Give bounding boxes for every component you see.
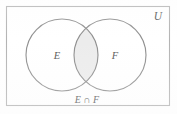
universe-label: U bbox=[154, 10, 163, 22]
set-f-label: F bbox=[111, 50, 119, 61]
set-e-label: E bbox=[53, 50, 61, 61]
venn-diagram-figure: U E F E ∩ F bbox=[0, 0, 177, 114]
intersection-caption: E ∩ F bbox=[74, 94, 100, 105]
venn-diagram-canvas: U E F E ∩ F bbox=[0, 0, 177, 114]
